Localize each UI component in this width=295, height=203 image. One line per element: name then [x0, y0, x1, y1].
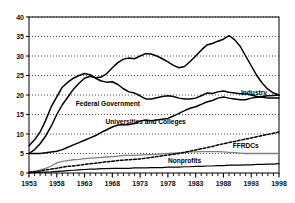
y-tick-label: 35	[16, 33, 24, 40]
series-label: Federal Government	[76, 100, 141, 107]
chart-figure: 0510152025303540 19531958196319681973197…	[0, 0, 295, 203]
series-label: FFRDCs	[233, 142, 259, 149]
y-tick-label: 10	[16, 131, 24, 138]
x-tick-label: 1958	[49, 180, 65, 187]
series-label: Universities and Colleges	[106, 118, 187, 126]
y-tick-label: 25	[16, 72, 24, 79]
x-tick-label: 1973	[132, 180, 148, 187]
x-tick-label: 1968	[105, 180, 121, 187]
y-tick-label: 20	[16, 92, 24, 99]
x-tick-label: 1983	[188, 180, 204, 187]
x-tick-label: 1978	[160, 180, 176, 187]
y-tick-label: 5	[20, 150, 24, 157]
y-tick-label: 15	[16, 111, 24, 118]
y-tick-label: 40	[16, 14, 24, 21]
x-tick-label: 1963	[77, 180, 93, 187]
x-tick-label: 1988	[216, 180, 232, 187]
y-tick-label: 30	[16, 53, 24, 60]
series-label: Nonprofits	[168, 157, 202, 165]
line-chart: 0510152025303540 19531958196319681973197…	[0, 0, 295, 203]
x-tick-label: 1953	[21, 180, 37, 187]
series-label: Industry	[241, 89, 267, 97]
x-tick-label: 1993	[243, 180, 259, 187]
x-tick-label: 1998	[271, 180, 287, 187]
y-tick-label: 0	[20, 170, 24, 177]
